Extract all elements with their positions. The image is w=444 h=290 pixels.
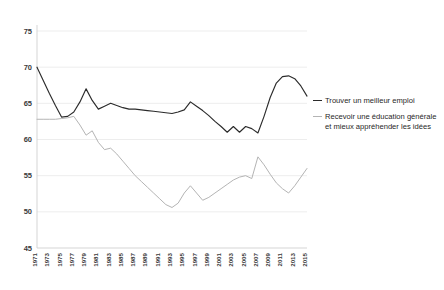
svg-text:2015: 2015 [301,252,308,266]
legend-item-1: Recevoir une éducation générale et mieux… [313,112,441,133]
svg-text:60: 60 [24,135,32,144]
svg-text:1997: 1997 [191,252,198,266]
svg-text:1975: 1975 [56,252,63,266]
legend-color-swatch-icon [313,100,322,108]
svg-text:1987: 1987 [129,252,136,266]
svg-text:1995: 1995 [178,252,185,266]
svg-text:1979: 1979 [80,252,87,266]
svg-text:70: 70 [24,63,32,72]
svg-text:45: 45 [24,244,32,253]
svg-text:2003: 2003 [227,252,234,266]
svg-text:2013: 2013 [289,252,296,266]
chart-legend: Trouver un meilleur emploi Recevoir une … [313,96,441,138]
svg-text:1981: 1981 [92,252,99,266]
chart-canvas: 45505560657075 1971197319751977197919811… [0,0,444,290]
svg-text:1973: 1973 [43,252,50,266]
series-line-recevoir-une-education [37,116,307,207]
svg-text:2009: 2009 [264,252,271,266]
gridlines [37,25,307,248]
x-axis-tick-labels: 1971197319751977197919811983198519871989… [31,252,308,266]
svg-text:1977: 1977 [68,252,75,266]
legend-color-swatch-icon [313,116,322,124]
svg-text:2005: 2005 [240,252,247,266]
svg-text:1993: 1993 [166,252,173,266]
legend-label-0: Trouver un meilleur emploi [325,96,415,107]
svg-text:50: 50 [24,207,32,216]
svg-text:1983: 1983 [105,252,112,266]
legend-label-1: Recevoir une éducation générale et mieux… [325,112,441,133]
y-axis-tick-labels: 45505560657075 [24,27,32,253]
svg-text:2007: 2007 [252,252,259,266]
svg-text:75: 75 [24,27,32,36]
svg-text:1985: 1985 [117,252,124,266]
svg-text:2011: 2011 [276,252,283,266]
svg-text:55: 55 [24,171,32,180]
legend-item-0: Trouver un meilleur emploi [313,96,441,107]
svg-text:1999: 1999 [203,252,210,266]
svg-text:1991: 1991 [154,252,161,266]
line-chart: 45505560657075 1971197319751977197919811… [0,0,444,290]
svg-text:65: 65 [24,99,32,108]
series-line-trouver-un-meilleur-emploi [37,67,307,133]
svg-text:2001: 2001 [215,252,222,266]
svg-text:1971: 1971 [31,252,38,266]
svg-text:1989: 1989 [141,252,148,266]
